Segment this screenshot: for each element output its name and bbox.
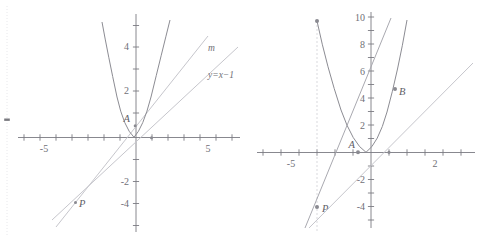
point-x-intercept-marker bbox=[150, 136, 153, 139]
point-B-label: B bbox=[399, 86, 406, 97]
y-tick-label-neg4: -4 bbox=[121, 198, 129, 209]
line-y-eq-x-minus-1-label: y=x−1 bbox=[207, 70, 234, 80]
line-m-label: m bbox=[208, 43, 215, 53]
point-A-marker bbox=[356, 150, 360, 154]
point-top-marker bbox=[315, 19, 319, 23]
point-x-intercept-marker bbox=[387, 151, 390, 154]
x-tick-label-neg5: -5 bbox=[40, 143, 48, 154]
point-A-label: A bbox=[348, 139, 356, 150]
point-P-marker bbox=[74, 201, 77, 204]
point-P-label: P bbox=[78, 198, 86, 209]
page-edge-marker bbox=[4, 119, 10, 121]
y-tick-label-4: 4 bbox=[360, 93, 365, 104]
point-A-marker bbox=[134, 124, 137, 127]
graph-panel-right: -5 2 10 8 6 4 2 -2 -4 A B P bbox=[247, 0, 494, 241]
graph-panel-left: -5 5 4 2 -2 -4 A P m y=x−1 bbox=[0, 0, 247, 241]
point-B-marker bbox=[393, 87, 397, 91]
y-tick-label-neg4: -4 bbox=[357, 201, 365, 212]
y-tick-label-2: 2 bbox=[360, 120, 365, 131]
y-tick-label-4: 4 bbox=[124, 41, 129, 52]
line-secant-PB bbox=[305, 18, 391, 228]
y-tick-label-neg2: -2 bbox=[121, 176, 129, 187]
y-tick-label-10: 10 bbox=[355, 12, 365, 23]
y-tick-label-2: 2 bbox=[124, 85, 129, 96]
x-tick-label-neg5: -5 bbox=[287, 158, 295, 169]
y-tick-label-6: 6 bbox=[360, 66, 365, 77]
left-coordinate-plot: -5 5 4 2 -2 -4 A P m y=x−1 bbox=[0, 0, 247, 241]
y-tick-label-neg2: -2 bbox=[357, 174, 365, 185]
right-coordinate-plot: -5 2 10 8 6 4 2 -2 -4 A B P bbox=[247, 0, 494, 241]
y-tick-label-8: 8 bbox=[360, 39, 365, 50]
figure-root: -5 5 4 2 -2 -4 A P m y=x−1 bbox=[0, 0, 494, 241]
point-P-marker bbox=[315, 205, 319, 209]
x-tick-label-5: 5 bbox=[206, 143, 211, 154]
point-A-label: A bbox=[123, 113, 131, 124]
point-P-label: P bbox=[321, 203, 329, 214]
x-tick-label-2: 2 bbox=[433, 158, 438, 169]
